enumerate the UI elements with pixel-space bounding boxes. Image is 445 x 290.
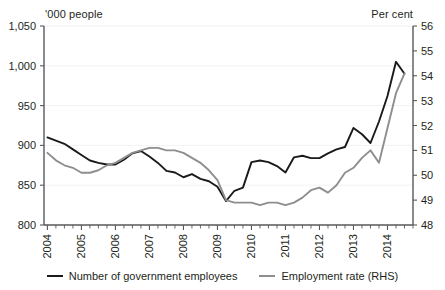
series-line-primary [47, 62, 404, 201]
svg-text:800: 800 [18, 219, 36, 231]
svg-text:2004: 2004 [41, 234, 53, 258]
series-lines [47, 62, 404, 205]
axis-tick-labels: 8008509009501,0001,050484950515253545556… [8, 20, 433, 258]
svg-text:55: 55 [421, 45, 433, 57]
svg-text:2006: 2006 [109, 234, 121, 258]
chart-legend: Number of government employees Employmen… [0, 270, 445, 282]
svg-text:2007: 2007 [143, 234, 155, 258]
svg-text:900: 900 [18, 139, 36, 151]
svg-text:1,050: 1,050 [8, 20, 36, 32]
svg-text:50: 50 [421, 169, 433, 181]
svg-text:56: 56 [421, 20, 433, 32]
legend-swatch-icon-primary [47, 275, 63, 277]
svg-text:2012: 2012 [313, 234, 325, 258]
svg-text:2008: 2008 [177, 234, 189, 258]
svg-text:2011: 2011 [279, 234, 291, 258]
line-chart-plot: 8008509009501,0001,050484950515253545556… [0, 0, 445, 290]
chart-container: '000 people Per cent 8008509009501,0001,… [0, 0, 445, 290]
axis-lines [44, 26, 413, 225]
svg-text:2005: 2005 [75, 234, 87, 258]
svg-text:1,000: 1,000 [8, 60, 36, 72]
svg-text:53: 53 [421, 95, 433, 107]
grid-lines [44, 26, 413, 185]
svg-text:51: 51 [421, 144, 433, 156]
svg-text:54: 54 [421, 70, 433, 82]
svg-text:2013: 2013 [347, 234, 359, 258]
svg-text:2014: 2014 [381, 234, 393, 258]
legend-label-secondary: Employment rate (RHS) [281, 270, 398, 282]
legend-item-secondary: Employment rate (RHS) [259, 270, 398, 282]
svg-text:48: 48 [421, 219, 433, 231]
svg-text:950: 950 [18, 100, 36, 112]
svg-text:49: 49 [421, 194, 433, 206]
svg-text:2010: 2010 [245, 234, 257, 258]
svg-text:850: 850 [18, 179, 36, 191]
legend-label-primary: Number of government employees [69, 270, 238, 282]
svg-text:52: 52 [421, 120, 433, 132]
legend-item-primary: Number of government employees [47, 270, 238, 282]
svg-text:2009: 2009 [211, 234, 223, 258]
legend-swatch-icon-secondary [259, 275, 275, 277]
